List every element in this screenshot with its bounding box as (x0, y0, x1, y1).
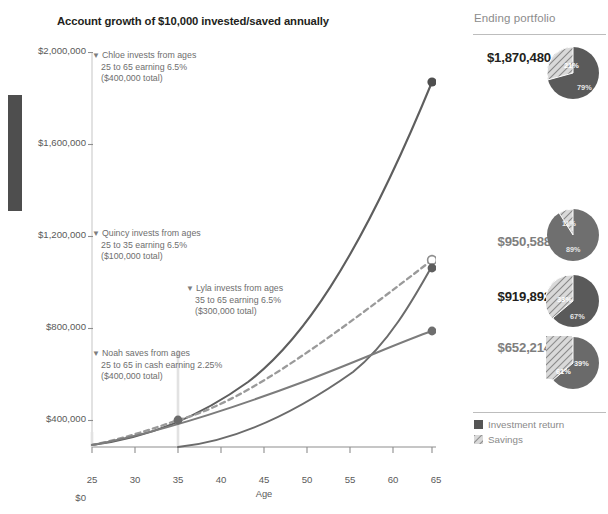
marker-age35 (174, 416, 183, 425)
ending-value-quincy: $950,588 (455, 234, 551, 249)
x-tick-label: 60 (380, 474, 406, 485)
legend-divider (473, 412, 606, 413)
x-tick-label: 50 (294, 474, 320, 485)
annotation-line-2: 25 to 65 in cash earning 2.25% (92, 360, 222, 372)
annotation-line-1: Lyla invests from ages (196, 283, 283, 293)
ending-portfolio-divider (473, 34, 606, 35)
annotation-line-2: 25 to 35 earning 6.5% (92, 240, 201, 252)
annotation-line-3: ($100,000 total) (92, 251, 201, 263)
x-tick-label: 45 (251, 474, 277, 485)
x-tick-label: 25 (79, 474, 105, 485)
x-tick-label: 65 (423, 474, 449, 485)
triangle-down-icon: ▼ (92, 51, 100, 60)
annotation-line-3: ($400,000 total) (92, 73, 196, 85)
hatched-square-icon (474, 435, 483, 444)
chart-root: Account growth of $10,000 invested/saved… (0, 0, 608, 514)
pie-slice-label: 89% (566, 245, 581, 254)
endpoint-chloe (427, 77, 436, 86)
series-line-chloe (92, 82, 432, 445)
page-title: Account growth of $10,000 invested/saved… (57, 15, 457, 27)
y-tick-label: $1,200,000 (38, 229, 86, 240)
pie-slice-label: 33% (557, 295, 572, 304)
pie-slice-label: 39% (574, 359, 589, 368)
pie-chart-lyla: 33% 67% (546, 274, 600, 328)
annotation-chloe: ▼Chloe invests from ages 25 to 65 earnin… (92, 50, 196, 85)
x-axis-title: Age (244, 489, 284, 499)
solid-square-icon (474, 420, 483, 429)
x-tick-label: 55 (337, 474, 363, 485)
endpoint-quincy (428, 256, 436, 265)
pie-chart-chloe: 21% 79% (546, 46, 600, 100)
ending-portfolio-header: Ending portfolio (474, 12, 556, 24)
ending-value-lyla: $919,892 (455, 289, 551, 304)
annotation-line-3: ($300,000 total) (186, 306, 283, 318)
ending-value-noah: $652,214 (455, 340, 551, 355)
legend-item-investment-return: Investment return (474, 419, 564, 430)
annotation-line-2: 35 to 65 earning 6.5% (186, 295, 283, 307)
pie-chart-quincy: 11% 89% (546, 208, 600, 262)
x-tick-label: 35 (165, 474, 191, 485)
x-tick-label: 40 (208, 474, 234, 485)
triangle-down-icon: ▼ (186, 284, 194, 293)
y-axis: $2,000,000 $1,600,000 $1,200,000 $800,00… (0, 40, 86, 470)
endpoint-lyla (428, 264, 436, 273)
annotation-line-3: ($400,000 total) (92, 371, 222, 383)
ending-value-chloe: $1,870,480 (455, 50, 551, 65)
legend-label: Investment return (488, 419, 564, 430)
x-tick-label: 30 (122, 474, 148, 485)
pie-slice-label: 11% (562, 219, 577, 228)
legend-label: Savings (488, 434, 523, 445)
y-tick-label: $400,000 (46, 413, 86, 424)
y-tick-label: $1,600,000 (38, 137, 86, 148)
pie-slice-label: 79% (577, 83, 592, 92)
legend-item-savings: Savings (474, 434, 523, 445)
y-tick-label: $2,000,000 (38, 45, 86, 56)
annotation-noah: ▼Noah saves from ages 25 to 65 in cash e… (92, 348, 222, 383)
annotation-line-2: 25 to 65 earning 6.5% (92, 62, 196, 74)
y-tick-label: $0 (75, 492, 86, 503)
annotation-line-1: Quincy invests from ages (102, 228, 201, 238)
y-tick-label: $800,000 (46, 321, 86, 332)
annotation-line-1: Chloe invests from ages (102, 50, 196, 60)
triangle-down-icon: ▼ (92, 229, 100, 238)
x-tick-marks (92, 447, 432, 453)
annotation-lyla: ▼Lyla invests from ages 35 to 65 earning… (186, 283, 283, 318)
annotation-line-1: Noah saves from ages (102, 348, 190, 358)
pie-chart-noah: 61% 39% (546, 336, 600, 390)
pie-slice-label: 67% (570, 312, 585, 321)
triangle-down-icon: ▼ (92, 349, 100, 358)
pie-slice-label: 61% (556, 367, 571, 376)
endpoint-noah (428, 327, 436, 336)
annotation-quincy: ▼Quincy invests from ages 25 to 35 earni… (92, 228, 201, 263)
pie-slice-label: 21% (564, 61, 579, 70)
